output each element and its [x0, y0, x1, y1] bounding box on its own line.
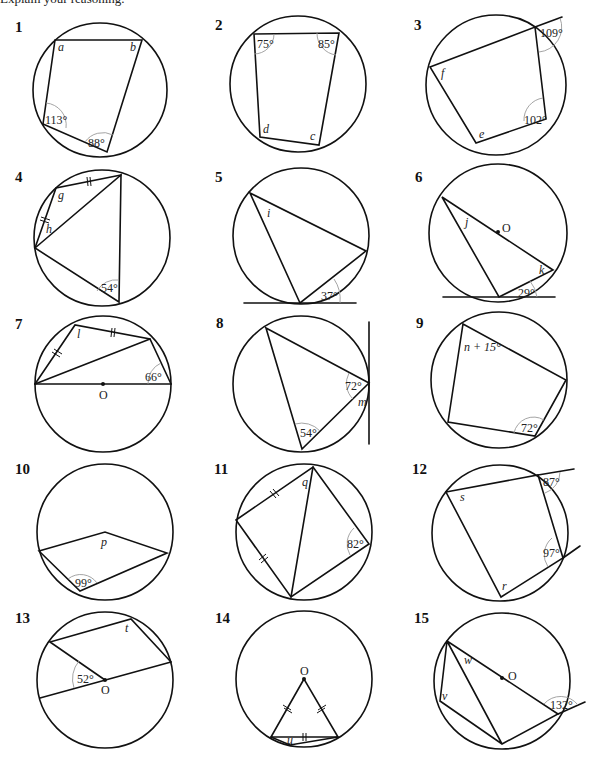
center-point	[500, 676, 504, 680]
inscribed-figure	[440, 641, 558, 744]
diagram-13: 13 t 52° O	[15, 610, 173, 748]
label-i: i	[267, 206, 270, 220]
circle	[230, 16, 366, 152]
label-r: r	[502, 579, 507, 593]
diagram-number: 8	[216, 315, 224, 331]
angle-72: 72°	[521, 421, 538, 435]
label-g: g	[58, 188, 64, 202]
diagram-12: 12 s 87° 97° r	[412, 461, 580, 601]
angle-102: 102°	[524, 113, 547, 127]
diagram-number: 3	[414, 17, 422, 33]
center-label-o: O	[508, 669, 517, 683]
label-e: e	[479, 127, 485, 141]
angle-54: 54°	[300, 426, 317, 440]
label-v: v	[442, 689, 448, 703]
angle-113: 113°	[45, 113, 68, 127]
page-caption: Explain your reasoning.	[0, 0, 125, 7]
label-u: u	[287, 733, 293, 747]
angle-97: 97°	[543, 546, 560, 560]
isosceles-triangle	[271, 679, 338, 737]
diagram-7: 7 l O 66°	[15, 316, 171, 452]
inscribed-triangle	[442, 197, 553, 297]
label-h: h	[46, 222, 52, 236]
center-label-o: O	[300, 664, 309, 678]
label-q: q	[302, 475, 308, 489]
diagrams-canvas: 1 a b 113° 88° 2 75° 85° d c 3	[0, 0, 589, 758]
diagram-number: 4	[15, 169, 23, 185]
label-c: c	[310, 129, 316, 143]
label-m: m	[358, 395, 367, 409]
angle-29: 29°	[518, 286, 535, 300]
diagram-5: 5 i 37°	[215, 168, 369, 304]
diagram-number: 14	[215, 610, 231, 626]
angle-87: 87°	[543, 475, 560, 489]
diagram-15: 15 w O v 132°	[414, 610, 585, 749]
diagram-2: 2 75° 85° d c	[215, 16, 366, 152]
label-l: l	[77, 327, 81, 341]
diagram-number: 13	[15, 610, 30, 626]
equal-tick	[111, 328, 112, 337]
angle-82: 82°	[347, 537, 364, 551]
center-label-o: O	[101, 683, 110, 697]
circle	[431, 312, 567, 448]
diagram-number: 10	[15, 461, 30, 477]
diagram-14: 14 O u	[215, 610, 372, 747]
label-d: d	[263, 122, 270, 136]
diagram-4: 4 g h 54°	[15, 169, 170, 306]
diagram-number: 7	[15, 316, 23, 332]
label-s: s	[460, 490, 465, 504]
circle	[434, 613, 570, 749]
label-a: a	[58, 40, 64, 54]
diagram-number: 12	[412, 461, 427, 477]
equal-tick	[87, 177, 88, 186]
angle-75: 75°	[257, 37, 274, 51]
equal-tick	[90, 177, 91, 186]
quadrilateral	[50, 619, 171, 680]
label-k: k	[539, 263, 545, 277]
diagram-number: 9	[416, 315, 424, 331]
label-w: w	[464, 653, 472, 667]
diagram-number: 1	[15, 19, 23, 35]
angle-54: 54°	[101, 281, 118, 295]
angle-85: 85°	[318, 37, 335, 51]
center-label-o: O	[99, 388, 108, 402]
diagram-number: 6	[415, 169, 423, 185]
center-label-o: O	[502, 221, 511, 235]
label-t: t	[125, 621, 129, 635]
label-p: p	[100, 535, 107, 549]
label-b: b	[130, 40, 136, 54]
label-n-plus-15: n + 15°	[464, 340, 501, 354]
circle	[233, 168, 369, 304]
diagram-3: 3 109° 102° f e	[414, 15, 566, 155]
center-point	[101, 382, 105, 386]
angle-52: 52°	[77, 672, 94, 686]
label-f: f	[441, 66, 446, 80]
angle-132: 132°	[550, 698, 573, 712]
angle-88: 88°	[88, 136, 105, 150]
label-j: j	[463, 215, 469, 229]
equal-tick	[114, 328, 115, 337]
center-point	[103, 678, 107, 682]
diagonal	[35, 339, 150, 384]
angle-66: 66°	[145, 370, 162, 384]
angle-72: 72°	[345, 379, 362, 393]
angle-109: 109°	[540, 26, 563, 40]
diagram-6: 6 j k O 29°	[415, 164, 567, 302]
diagram-8: 8 72° m 54°	[216, 315, 369, 452]
diagram-number: 11	[214, 461, 228, 477]
angle-37: 37°	[321, 289, 338, 303]
worksheet: Explain your reasoning. 1 a b 113° 88° 2…	[0, 0, 589, 758]
diagram-1: 1 a b 113° 88°	[15, 19, 167, 157]
diagram-number: 5	[215, 169, 223, 185]
diagram-10: 10 p 99°	[15, 461, 173, 600]
diagram-number: 2	[215, 17, 223, 33]
diagram-9: 9 n + 15° 72°	[416, 312, 567, 448]
center-point	[496, 230, 500, 234]
angle-99: 99°	[75, 576, 92, 590]
diagram-11: 11 q 82°	[214, 461, 372, 600]
diagram-number: 15	[414, 610, 429, 626]
